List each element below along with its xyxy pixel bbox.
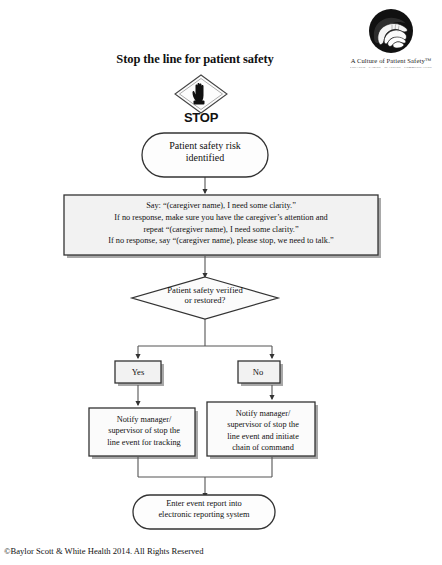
node-branch-yes-label: Yes — [115, 367, 161, 377]
node-action-right-line-4: chain of command — [209, 442, 317, 453]
node-decision-line-2: or restored? — [136, 295, 274, 305]
node-action-right-line-1: Notify manager/ — [209, 408, 317, 419]
node-end-line-1: Enter event report into — [136, 499, 272, 510]
hands-cupping-icon — [364, 8, 418, 56]
node-action-left-line-1: Notify manager/ — [91, 414, 197, 425]
node-action-right-line-2: supervisor of stop the — [209, 419, 317, 430]
node-action-right-label: Notify manager/ supervisor of stop the l… — [209, 408, 317, 454]
stop-label: STOP — [184, 110, 219, 125]
node-script-label: Say: “(caregiver name), I need some clar… — [64, 200, 378, 247]
node-end-label: Enter event report into electronic repor… — [136, 499, 272, 521]
node-branch-no-label: No — [237, 367, 279, 377]
node-action-left-label: Notify manager/ supervisor of stop the l… — [91, 414, 197, 448]
node-start-label: Patient safety risk identified — [143, 140, 267, 164]
node-action-left-line-3: line event for tracking — [91, 437, 197, 448]
node-end-line-2: electronic reporting system — [136, 510, 272, 521]
flowchart-page: A Culture of Patient Safety™ ENGAGED · C… — [0, 0, 442, 565]
node-action-right-line-3: line event and initiate — [209, 431, 317, 442]
node-script-line-4: If no response, say “(caregiver name), p… — [64, 235, 378, 247]
node-action-left-line-2: supervisor of stop the — [91, 425, 197, 436]
page-title: Stop the line for patient safety — [0, 52, 390, 67]
node-start-line-1: Patient safety risk — [143, 140, 267, 152]
node-decision-label: Patient safety verified or restored? — [136, 285, 274, 305]
node-script-line-3: repeat “(caregiver name), I need some cl… — [64, 224, 378, 236]
stop-sign-graphic: STOP — [171, 72, 231, 124]
copyright-notice: ©Baylor Scott & White Health 2014. All R… — [4, 546, 203, 556]
node-script-line-2: If no response, make sure you have the c… — [64, 212, 378, 224]
node-start-line-2: identified — [143, 152, 267, 164]
node-script-line-1: Say: “(caregiver name), I need some clar… — [64, 200, 378, 212]
node-decision-line-1: Patient safety verified — [136, 285, 274, 295]
stop-hand-icon — [175, 75, 227, 113]
